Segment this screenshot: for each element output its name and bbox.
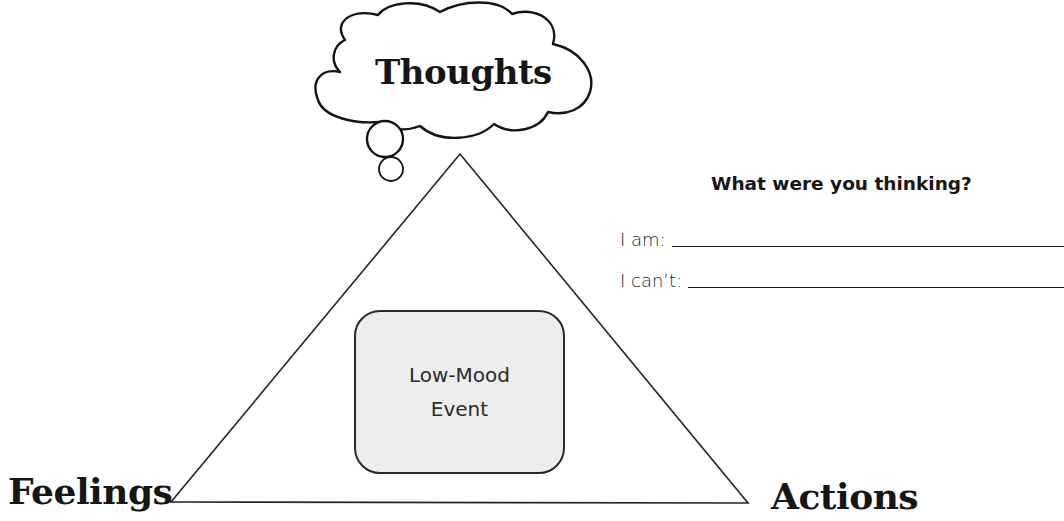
prompt-label-i-cant: I can’t: bbox=[620, 270, 688, 291]
thought-bubble-small bbox=[379, 157, 403, 181]
center-event-box: Low-Mood Event bbox=[354, 310, 565, 474]
event-line-1: Low-Mood bbox=[409, 358, 510, 392]
node-actions: Actions bbox=[771, 475, 918, 517]
node-feelings: Feelings bbox=[8, 470, 172, 512]
event-line-2: Event bbox=[431, 392, 488, 426]
i-cant-field[interactable] bbox=[688, 265, 1064, 288]
prompt-row-i-am: I am: bbox=[620, 224, 1064, 250]
prompt-label-i-am: I am: bbox=[620, 229, 672, 250]
worksheet-canvas: Thoughts Feelings Actions Low-Mood Event… bbox=[0, 0, 1064, 521]
node-thoughts: Thoughts bbox=[375, 52, 552, 92]
prompt-row-i-cant: I can’t: bbox=[620, 265, 1064, 291]
prompt-title: What were you thinking? bbox=[711, 173, 972, 194]
thought-bubble-large bbox=[367, 121, 403, 157]
i-am-field[interactable] bbox=[672, 224, 1064, 247]
